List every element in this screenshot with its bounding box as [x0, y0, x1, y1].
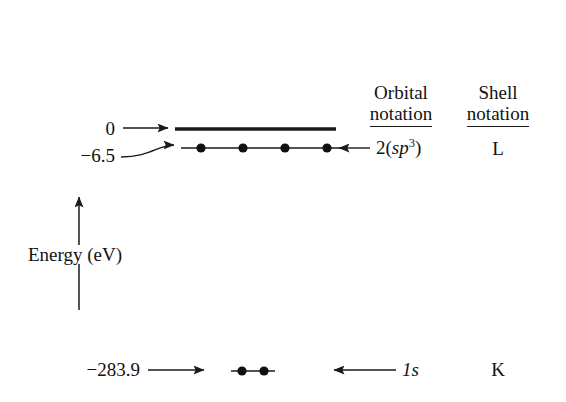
- 1s-electron-dots: [237, 366, 268, 375]
- 1s-orbital-italic: 1s: [402, 359, 419, 380]
- sp3-orbital-notation: 2(sp3): [376, 138, 421, 157]
- orbital-notation-header: Orbital notation: [355, 82, 447, 127]
- shell-notation-K: K: [452, 360, 544, 379]
- sp3-orbital-prefix: 2(: [376, 137, 392, 158]
- sp3-orbital-suffix: ): [415, 137, 421, 158]
- 1s-energy-label: −283.9: [40, 360, 140, 379]
- sp3-energy-label: −6.5: [30, 146, 115, 165]
- orbital-notation-header-line2: notation: [370, 103, 432, 126]
- energy-level-diagram: Orbital notation Shell notation 0 −6.5 −…: [0, 0, 566, 402]
- sp3-level-pointer-arrow: [121, 145, 174, 157]
- energy-axis-label: Energy (eV): [26, 245, 124, 264]
- electron-dot: [238, 143, 247, 152]
- sp3-electron-dots: [196, 143, 331, 152]
- electron-dot: [322, 143, 331, 152]
- shell-notation-header-line2: notation: [467, 103, 529, 126]
- electron-dot: [237, 366, 246, 375]
- 1s-orbital-notation: 1s: [402, 360, 419, 379]
- shell-notation-header-line1: Shell: [478, 82, 517, 103]
- orbital-notation-header-line1: Orbital: [374, 82, 428, 103]
- sp3-orbital-italic: sp: [392, 137, 409, 158]
- electron-dot: [196, 143, 205, 152]
- electron-dot: [259, 366, 268, 375]
- electron-dot: [280, 143, 289, 152]
- shell-notation-header: Shell notation: [452, 82, 544, 127]
- zero-energy-label: 0: [40, 119, 115, 138]
- shell-notation-L: L: [452, 139, 544, 158]
- diagram-vector-layer: [0, 0, 566, 402]
